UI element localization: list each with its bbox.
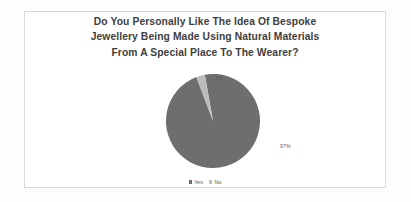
pie-chart: [165, 73, 261, 169]
pie-svg: [165, 73, 261, 169]
legend-label-yes: Yes: [194, 179, 203, 185]
pie-label-no: 3%: [208, 75, 230, 81]
chart-legend: Yes No: [24, 179, 386, 185]
plot-area: 3% 97% Yes No: [24, 11, 386, 188]
legend-swatch-no: [209, 180, 212, 183]
legend-swatch-yes: [189, 180, 192, 183]
pie-slice-yes: [166, 74, 260, 168]
pie-slices: [166, 74, 260, 168]
legend-item-yes: Yes: [189, 179, 203, 185]
chart-figure: Do You Personally Like The Idea Of Bespo…: [0, 0, 411, 202]
pie-label-yes: 97%: [280, 143, 291, 149]
legend-item-no: No: [209, 179, 221, 185]
legend-label-no: No: [214, 179, 221, 185]
